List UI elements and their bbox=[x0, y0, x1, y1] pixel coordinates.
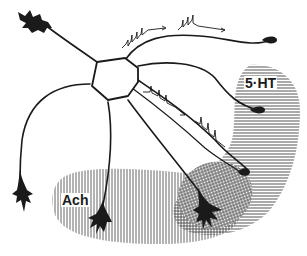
acetylcholine-label: Ach bbox=[61, 193, 89, 207]
cell-body bbox=[92, 58, 138, 100]
neuron-diagram bbox=[0, 0, 307, 256]
serotonin-label: 5·HT bbox=[244, 76, 277, 90]
